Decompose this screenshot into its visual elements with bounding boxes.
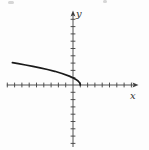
y-axis-label: y xyxy=(75,8,82,19)
math-graph-figure: x y xyxy=(0,0,149,150)
x-axis-label: x xyxy=(130,90,136,101)
graph-canvas: x y xyxy=(0,0,149,150)
function-curve xyxy=(12,63,80,85)
axes-layer xyxy=(7,11,139,148)
curve-layer xyxy=(12,63,80,85)
